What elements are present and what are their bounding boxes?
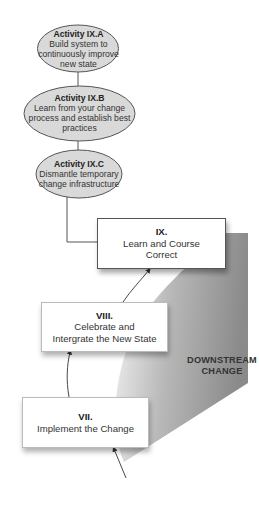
activity-ix-c: Activity IX.C Dismantle temporary change… (36, 159, 122, 189)
stage-label: Implement the Change (37, 423, 134, 435)
activity-line: Build system to (38, 39, 119, 49)
activity-line: practices (24, 123, 135, 133)
stage-label: Correct (146, 249, 177, 261)
stage-numeral: VIII. (96, 310, 113, 322)
arrow-vii-to-viii (67, 352, 70, 397)
stage-label: Celebrate and (74, 321, 134, 333)
stage-numeral: VII. (78, 411, 92, 423)
activity-ix-b: Activity IX.B Learn from your change pro… (24, 93, 135, 133)
activity-title: Activity IX.C (36, 159, 122, 169)
activity-ix-a: Activity IX.A Build system to continuous… (38, 29, 119, 69)
stage-label: Intergrate the New State (53, 333, 157, 345)
stage-viii-box: VIII. Celebrate and Intergrate the New S… (41, 302, 168, 352)
activity-line: process and establish best (24, 113, 135, 123)
stage-numeral: IX. (156, 226, 168, 238)
activity-line: change infrastructure (36, 179, 122, 189)
activity-line: Dismantle temporary (36, 169, 122, 179)
zone-label-line: CHANGE (185, 366, 259, 377)
activity-line: Learn from your change (24, 103, 135, 113)
downstream-change-label: DOWNSTREAM CHANGE (185, 355, 259, 377)
stage-vii-box: VII. Implement the Change (22, 397, 149, 448)
activity-title: Activity IX.B (24, 93, 135, 103)
connector-c-ix (67, 197, 97, 242)
activity-line: new state (38, 59, 119, 69)
activity-title: Activity IX.A (38, 29, 119, 39)
arrow-viii-to-ix (123, 270, 149, 302)
stage-ix-box: IX. Learn and Course Correct (97, 218, 226, 269)
activity-line: continuously improve (38, 49, 119, 59)
zone-label-line: DOWNSTREAM (185, 355, 259, 366)
stage-label: Learn and Course (123, 238, 200, 250)
